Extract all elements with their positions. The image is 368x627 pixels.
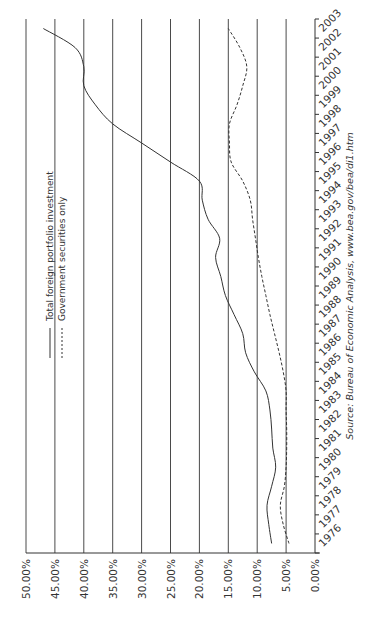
axes [26, 19, 320, 553]
y-tick-label: 5.00% [280, 559, 292, 592]
y-tick-label: 15.00% [222, 559, 234, 599]
rotated-line-chart: Total foreign portfolio investment Gover… [0, 0, 368, 627]
government-securities-line [228, 29, 289, 544]
legend: Total foreign portfolio investment Gover… [45, 171, 67, 358]
y-tick-label: 30.00% [136, 559, 148, 599]
y-tick-label: 50.00% [20, 559, 32, 599]
y-tick-label: 40.00% [78, 559, 90, 599]
source-note: Source: Bureau of Economic Analysis, www… [344, 132, 355, 439]
legend-total-label: Total foreign portfolio investment [45, 171, 55, 322]
y-tick-label: 0.00% [309, 559, 321, 592]
y-tick-label: 35.00% [107, 559, 119, 599]
y-tick-label: 10.00% [251, 559, 263, 599]
legend-gov-label: Government securities only [57, 196, 67, 321]
y-axis-labels: 0.00%5.00%10.00%15.00%20.00%25.00%30.00%… [20, 559, 321, 599]
total-investment-line [43, 29, 275, 544]
y-tick-label: 20.00% [193, 559, 205, 599]
x-axis-labels: 1976197719781979198019811982198319841985… [316, 7, 344, 549]
y-tick-label: 45.00% [49, 559, 61, 599]
y-tick-label: 25.00% [165, 559, 177, 599]
series-lines [43, 29, 289, 544]
